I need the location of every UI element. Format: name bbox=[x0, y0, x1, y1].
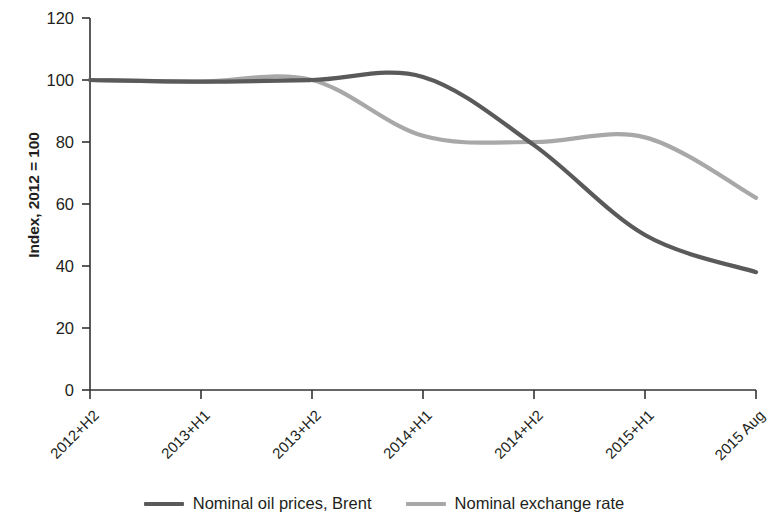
x-tick-label-2015-h1: 2015+H1 bbox=[571, 406, 657, 492]
chart-container: Index, 2012 = 100 120 100 80 60 40 20 0 bbox=[0, 0, 768, 522]
legend-swatch-icon-fx bbox=[406, 502, 446, 506]
legend-label-fx: Nominal exchange rate bbox=[455, 494, 625, 513]
x-tick-label-2012-h2: 2012+H2 bbox=[16, 406, 102, 492]
x-tick-label-2014-h2: 2014+H2 bbox=[460, 406, 546, 492]
legend-item-nominal-oil-prices-brent: Nominal oil prices, Brent bbox=[144, 494, 372, 513]
x-axis-tick-labels: 2012+H2 2013+H1 2013+H2 2014+H1 2014+H2 … bbox=[0, 0, 768, 522]
chart-legend: Nominal oil prices, Brent Nominal exchan… bbox=[0, 494, 768, 513]
legend-item-nominal-exchange-rate: Nominal exchange rate bbox=[406, 494, 625, 513]
x-tick-label-2014-h1: 2014+H1 bbox=[349, 406, 435, 492]
legend-swatch-icon-oil bbox=[144, 502, 184, 506]
x-tick-label-2015-aug: 2015 Aug bbox=[681, 406, 768, 493]
x-tick-label-2013-h2: 2013+H2 bbox=[238, 406, 324, 492]
x-tick-label-2013-h1: 2013+H1 bbox=[127, 406, 213, 492]
legend-label-oil: Nominal oil prices, Brent bbox=[193, 494, 372, 513]
